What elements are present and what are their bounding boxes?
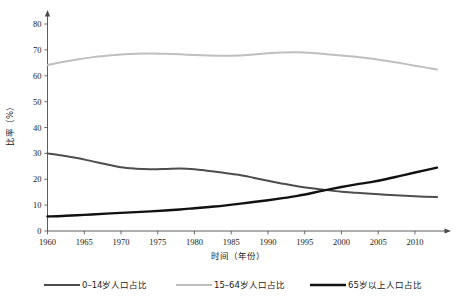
x-axis-title: 时间（年份）	[211, 251, 265, 261]
x-tick-label: 1970	[112, 237, 129, 247]
series-line-1	[48, 153, 438, 197]
y-axis: 01020304050607080	[33, 10, 50, 236]
x-tick-label: 1975	[149, 237, 166, 247]
x-tick-label: 2000	[333, 237, 350, 247]
y-tick-label: 80	[33, 19, 42, 29]
series-line-2	[48, 52, 438, 69]
chart-canvas: 01020304050607080 1960196519701975198019…	[0, 0, 458, 303]
y-tick-label: 30	[33, 148, 42, 158]
y-tick-label: 70	[33, 45, 42, 55]
x-axis-arrow	[445, 228, 452, 233]
x-tick-label: 1960	[39, 237, 56, 247]
x-tick-label: 2010	[406, 237, 423, 247]
y-tick-label: 0	[37, 226, 41, 236]
x-tick-label: 1980	[186, 237, 203, 247]
population-structure-chart: 01020304050607080 1960196519701975198019…	[0, 0, 458, 303]
y-tick-label: 40	[33, 123, 42, 133]
y-tick-label: 10	[33, 200, 42, 210]
y-axis-title: 比率（%）	[5, 102, 15, 146]
y-tick-label: 50	[33, 97, 42, 107]
chart-legend: 0–14岁人口占比15–64岁人口占比65岁以上人口占比	[44, 280, 422, 290]
y-tick-label: 20	[33, 174, 42, 184]
x-tick-label: 1995	[296, 237, 313, 247]
y-axis-arrow	[45, 10, 50, 17]
x-tick-label: 1985	[223, 237, 240, 247]
x-axis: 1960196519701975198019851990199520002005…	[39, 228, 451, 246]
x-tick-label: 2005	[370, 237, 387, 247]
y-tick-label: 60	[33, 71, 42, 81]
series-lines	[48, 52, 438, 216]
x-tick-label: 1990	[259, 237, 276, 247]
legend-label-3: 65岁以上人口占比	[348, 280, 422, 290]
legend-label-2: 15–64岁人口占比	[214, 280, 285, 290]
x-tick-label: 1965	[76, 237, 93, 247]
legend-label-1: 0–14岁人口占比	[82, 280, 147, 290]
